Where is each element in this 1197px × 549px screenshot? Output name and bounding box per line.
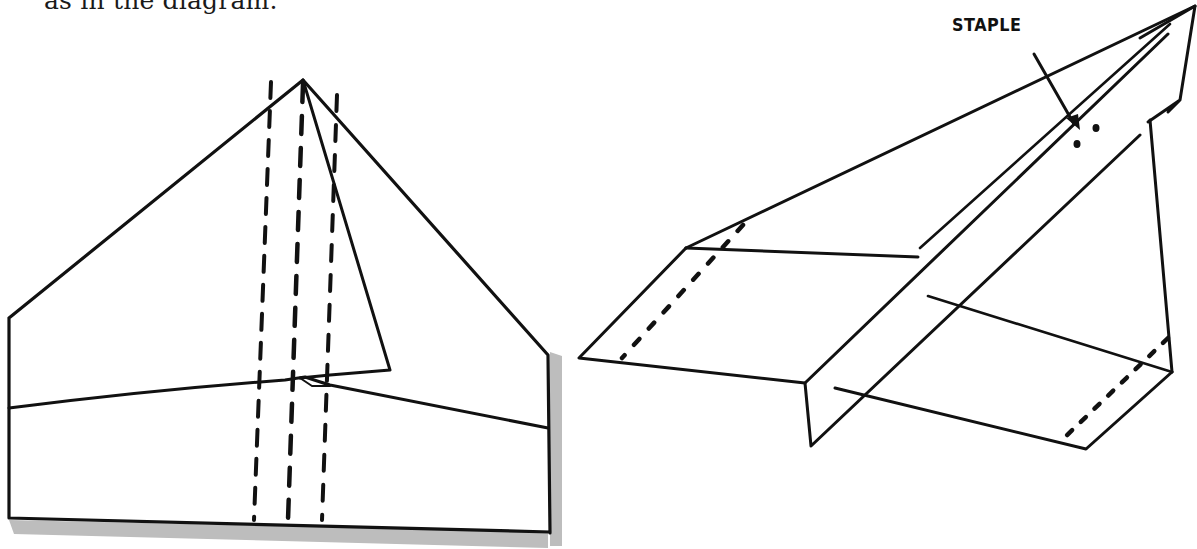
left-airplane-figure [9,80,562,548]
right-airplane-figure [579,6,1195,449]
staple-mark-icon [1093,124,1100,132]
fuselage-keel [805,34,1168,446]
nose-outline [1140,6,1195,122]
left-wing-flap-crease [686,248,918,257]
left-inner-flap [300,80,390,378]
staple-mark-icon [1074,140,1081,148]
left-band-fold [9,377,548,428]
staple-arrow-icon [1034,54,1074,124]
diagram-canvas [0,0,1197,549]
left-flap-dashed-fold [622,225,743,358]
keel-inner-line [920,24,1170,248]
left-outline [9,80,550,533]
left-wing-flap-outline [579,248,805,383]
left-figure-shadow-right [550,352,562,546]
right-wing-crease [928,296,1172,372]
right-wing-rear-edge [1150,120,1172,372]
right-wing-leading-edge [686,6,1195,248]
